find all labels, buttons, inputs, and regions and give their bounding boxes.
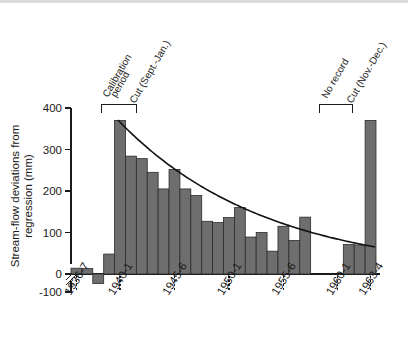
bar-1957-8 bbox=[300, 217, 311, 274]
bar-1942-3 bbox=[136, 159, 147, 274]
y-tick-label-neg100: -100 bbox=[39, 286, 62, 298]
no-record-bracket bbox=[319, 104, 352, 113]
bar-1954-5 bbox=[267, 251, 278, 274]
figure-container: Stream-flow deviations from regression (… bbox=[0, 0, 408, 349]
bar-1943-4 bbox=[147, 172, 158, 274]
bar-1939-40 bbox=[104, 254, 115, 274]
calibration-period-bracket bbox=[101, 104, 136, 113]
x-tick-label-1936-7: 1936-7 bbox=[62, 260, 91, 297]
bar-1948-9 bbox=[202, 221, 213, 274]
bar-1963-4 bbox=[365, 120, 376, 274]
bar-1962-3 bbox=[354, 245, 365, 274]
bar-1947-8 bbox=[191, 196, 202, 274]
no-record-label: No record bbox=[319, 56, 350, 100]
bar-1944-5 bbox=[158, 189, 169, 274]
y-axis-title-line1: Stream-flow deviations from bbox=[9, 125, 21, 268]
bar-1952-3 bbox=[245, 237, 256, 274]
cut-nov-dec-label: Cut (Nov.-Dec.) bbox=[344, 40, 388, 105]
y-tick-label-0: 0 bbox=[56, 268, 62, 280]
bar-1949-50 bbox=[213, 223, 224, 274]
y-tick-group bbox=[65, 108, 71, 292]
bar-1945-6 bbox=[169, 169, 180, 274]
bars-layer bbox=[71, 120, 376, 283]
y-tick-label-400: 400 bbox=[43, 102, 62, 114]
bar-1940-1 bbox=[115, 120, 126, 274]
bar-1953-4 bbox=[256, 233, 267, 275]
cut-sept-jan-label: Cut (Sept.-Jan.) bbox=[127, 38, 172, 105]
y-tick-label-300: 300 bbox=[43, 144, 62, 156]
bar-1938-9 bbox=[93, 274, 104, 284]
bar-1946-7 bbox=[180, 189, 191, 274]
stream-flow-bar-chart: Stream-flow deviations from regression (… bbox=[0, 0, 408, 349]
bar-1941-2 bbox=[125, 156, 136, 274]
x-tick-label-1960-1: 1960-1 bbox=[323, 260, 352, 297]
y-tick-label-100: 100 bbox=[43, 227, 62, 239]
y-axis-title-line2: regression (mm) bbox=[22, 154, 34, 238]
y-tick-label-200: 200 bbox=[43, 185, 62, 197]
